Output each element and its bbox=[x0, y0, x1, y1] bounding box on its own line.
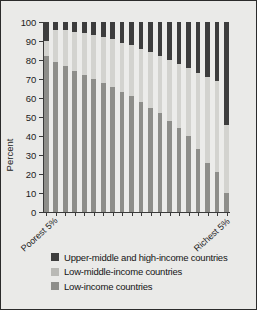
y-tick-label: 100 bbox=[21, 17, 36, 28]
y-tick-label: 20 bbox=[26, 169, 36, 180]
x-axis-label-poorest: Poorest 5% bbox=[19, 216, 60, 254]
bar-segment bbox=[72, 32, 77, 72]
y-tick-mark bbox=[39, 212, 43, 213]
bar-segment bbox=[205, 22, 210, 77]
stacked-bar bbox=[158, 22, 163, 212]
y-tick-label: 50 bbox=[26, 112, 36, 123]
stacked-bar bbox=[110, 22, 115, 212]
bar-segment bbox=[158, 56, 163, 113]
bar-segment bbox=[101, 83, 106, 212]
legend-item-upper-middle-high-income: Upper-middle and high-income countries bbox=[51, 251, 251, 263]
stacked-bar bbox=[196, 22, 201, 212]
bar-segment bbox=[196, 22, 201, 73]
y-tick-mark bbox=[39, 22, 43, 23]
y-tick-mark bbox=[39, 155, 43, 156]
bar-segment bbox=[167, 60, 172, 121]
y-tick-label: 30 bbox=[26, 150, 36, 161]
x-tick-mark bbox=[120, 212, 125, 216]
chart-legend: Upper-middle and high-income countries L… bbox=[51, 251, 251, 295]
y-tick-mark bbox=[39, 117, 43, 118]
bar-segment bbox=[196, 149, 201, 212]
plot-area: 0102030405060708090100 bbox=[44, 22, 229, 212]
stacked-bar bbox=[205, 22, 210, 212]
bar-segment bbox=[177, 128, 182, 212]
bar-segment bbox=[120, 43, 125, 92]
x-tick-mark bbox=[158, 212, 163, 216]
stacked-bar bbox=[177, 22, 182, 212]
stacked-bar bbox=[91, 22, 96, 212]
bar-segment bbox=[101, 37, 106, 83]
x-tick-mark bbox=[196, 212, 201, 216]
y-tick-mark bbox=[39, 193, 43, 194]
bar-segment bbox=[148, 22, 153, 52]
y-tick-label: 90 bbox=[26, 36, 36, 47]
bar-segment bbox=[215, 22, 220, 81]
stacked-bar bbox=[215, 22, 220, 212]
legend-label: Low-income countries bbox=[64, 281, 152, 292]
y-tick-mark bbox=[39, 41, 43, 42]
x-tick-mark bbox=[44, 212, 49, 216]
bar-segment bbox=[205, 163, 210, 212]
bar-segment bbox=[53, 30, 58, 62]
y-tick-label: 80 bbox=[26, 55, 36, 66]
bar-segment bbox=[82, 33, 87, 75]
bar-segment bbox=[158, 22, 163, 56]
bar-segment bbox=[120, 92, 125, 212]
legend-item-low-middle-income: Low-middle-income countries bbox=[51, 266, 251, 278]
bar-segment bbox=[186, 68, 191, 136]
x-tick-mark bbox=[205, 212, 210, 216]
bar-segment bbox=[129, 45, 134, 96]
y-tick-mark bbox=[39, 136, 43, 137]
bar-segment bbox=[177, 64, 182, 129]
bar-segment bbox=[110, 22, 115, 39]
bar-segment bbox=[129, 22, 134, 45]
stacked-bar bbox=[44, 22, 49, 212]
legend-swatch-icon bbox=[51, 268, 59, 276]
x-tick-mark bbox=[177, 212, 182, 216]
bar-segment bbox=[53, 62, 58, 212]
y-axis-title: Percent bbox=[4, 139, 15, 172]
bar-segment bbox=[44, 41, 49, 56]
bar-segment bbox=[139, 102, 144, 212]
stacked-bar bbox=[148, 22, 153, 212]
y-tick-mark bbox=[39, 60, 43, 61]
legend-swatch-icon bbox=[51, 282, 59, 290]
y-tick-label: 10 bbox=[26, 188, 36, 199]
bar-segment bbox=[91, 79, 96, 212]
stacked-bar bbox=[120, 22, 125, 212]
bar-segment bbox=[82, 75, 87, 212]
bar-segment bbox=[196, 73, 201, 149]
x-tick-mark bbox=[215, 212, 220, 216]
bar-segment bbox=[177, 22, 182, 64]
bar-segment bbox=[110, 39, 115, 87]
legend-item-low-income: Low-income countries bbox=[51, 280, 251, 292]
bar-segment bbox=[44, 22, 49, 41]
bar-segment bbox=[139, 22, 144, 49]
stacked-bar bbox=[129, 22, 134, 212]
y-tick-mark bbox=[39, 174, 43, 175]
x-tick-mark bbox=[101, 212, 106, 216]
bar-segment bbox=[167, 22, 172, 60]
bar-segment bbox=[186, 136, 191, 212]
stacked-bar bbox=[186, 22, 191, 212]
y-tick-label: 40 bbox=[26, 131, 36, 142]
bar-segment bbox=[101, 22, 106, 37]
bar-segment bbox=[139, 49, 144, 102]
y-tick-label: 60 bbox=[26, 93, 36, 104]
bar-segment bbox=[91, 35, 96, 79]
x-tick-mark bbox=[139, 212, 144, 216]
legend-swatch-icon bbox=[51, 253, 59, 261]
bar-segment bbox=[148, 52, 153, 107]
x-tick-mark bbox=[72, 212, 77, 216]
stacked-bar bbox=[101, 22, 106, 212]
bar-segment bbox=[53, 22, 58, 30]
bar-segment bbox=[167, 121, 172, 212]
legend-label: Low-middle-income countries bbox=[64, 266, 182, 277]
bar-segment bbox=[120, 22, 125, 43]
stacked-bar bbox=[139, 22, 144, 212]
x-tick-mark bbox=[167, 212, 172, 216]
bar-segment bbox=[63, 22, 68, 30]
x-tick-mark bbox=[129, 212, 134, 216]
stacked-bar bbox=[63, 22, 68, 212]
y-tick-mark bbox=[39, 79, 43, 80]
